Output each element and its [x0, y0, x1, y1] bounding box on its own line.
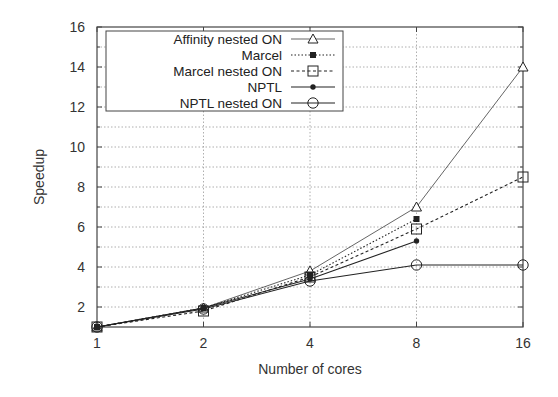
legend: Affinity nested ONMarcelMarcel nested ON…: [106, 31, 343, 111]
series-line: [97, 219, 417, 327]
x-tick-label: 8: [413, 335, 421, 351]
legend-label: NPTL: [247, 80, 282, 95]
y-tick-label: 16: [69, 19, 85, 35]
series-line: [97, 241, 417, 327]
y-tick-label: 10: [69, 139, 85, 155]
y-tick-label: 8: [77, 179, 85, 195]
filled-circle-marker: [414, 238, 419, 243]
legend-label: NPTL nested ON: [180, 96, 282, 111]
triangle-marker: [412, 202, 422, 211]
x-axis-title: Number of cores: [258, 361, 361, 377]
y-axis-title: Speedup: [31, 149, 47, 205]
x-tick-label: 16: [515, 335, 531, 351]
y-tick-label: 14: [69, 59, 85, 75]
y-tick-label: 6: [77, 219, 85, 235]
x-tick-label: 4: [306, 335, 314, 351]
legend-label: Marcel nested ON: [173, 64, 282, 79]
x-tick-label: 2: [200, 335, 208, 351]
y-tick-label: 4: [77, 259, 85, 275]
legend-label: Marcel: [241, 48, 282, 63]
y-tick-label: 2: [77, 299, 85, 315]
filled-square-marker: [414, 216, 420, 222]
x-tick-label: 1: [93, 335, 101, 351]
legend-label: Affinity nested ON: [173, 32, 282, 47]
series-marcel: [94, 216, 420, 330]
y-tick-label: 12: [69, 99, 85, 115]
filled-square-marker: [310, 52, 316, 58]
speedup-chart: 246810121416 124816 Number of cores Spee…: [0, 0, 558, 397]
series-nptl: [94, 238, 419, 329]
filled-circle-marker: [310, 84, 315, 89]
